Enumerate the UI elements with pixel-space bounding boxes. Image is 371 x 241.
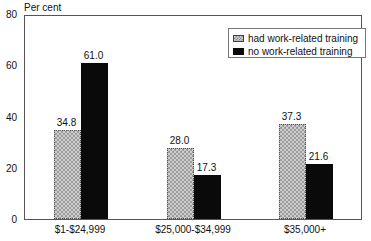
- value-label: 37.3: [272, 112, 312, 122]
- bar-trained: [167, 148, 194, 219]
- legend-item-trained: had work-related training: [233, 32, 365, 45]
- y-tick-20: 20: [0, 164, 17, 174]
- legend-item-untrained: no work-related training: [233, 45, 365, 58]
- value-label: 61.0: [74, 51, 114, 61]
- x-tick-label: $1-$24,999: [35, 224, 125, 235]
- x-tick-label: $35,000+: [260, 224, 350, 235]
- solid-swatch-icon: [233, 48, 244, 55]
- bar-chart: Per cent 80 60 40 20 0 had work-related …: [0, 0, 371, 241]
- y-tick-60: 60: [0, 61, 17, 71]
- legend: had work-related training no work-relate…: [228, 28, 366, 58]
- y-tick-40: 40: [0, 113, 17, 123]
- bar-untrained: [194, 175, 221, 219]
- legend-label: no work-related training: [248, 46, 353, 57]
- y-axis-label: Per cent: [24, 2, 61, 13]
- value-label: 17.3: [187, 163, 227, 173]
- bar-untrained: [306, 164, 333, 219]
- x-tick-label: $25,000-$34,999: [148, 224, 238, 235]
- value-label: 21.6: [299, 152, 339, 162]
- bar-untrained: [81, 63, 108, 219]
- y-tick-0: 0: [0, 215, 17, 225]
- bar-trained: [54, 130, 81, 219]
- bar-trained: [279, 124, 306, 219]
- y-tick-80: 80: [0, 10, 17, 20]
- value-label: 28.0: [160, 136, 200, 146]
- value-label: 34.8: [47, 118, 87, 128]
- hatched-swatch-icon: [233, 35, 244, 42]
- legend-label: had work-related training: [248, 33, 358, 44]
